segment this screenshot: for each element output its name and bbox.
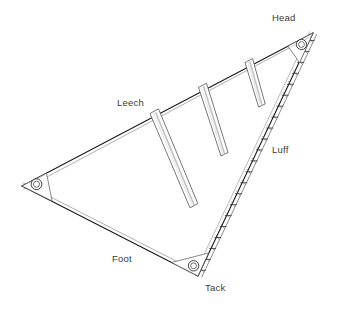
sail-drawing bbox=[0, 0, 337, 315]
clew-corner-group bbox=[22, 173, 52, 201]
head-grommet-inner bbox=[299, 42, 305, 48]
label-tack: Tack bbox=[205, 283, 225, 293]
tack-grommet-inner bbox=[191, 263, 197, 269]
label-luff: Luff bbox=[272, 145, 288, 155]
sail-diagram: Head Leech Luff Foot Tack bbox=[0, 0, 337, 315]
label-head: Head bbox=[272, 13, 296, 23]
clew-grommet-inner bbox=[34, 181, 40, 187]
label-foot: Foot bbox=[112, 254, 132, 264]
label-leech: Leech bbox=[117, 98, 144, 108]
